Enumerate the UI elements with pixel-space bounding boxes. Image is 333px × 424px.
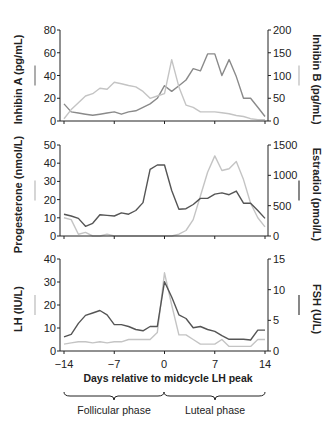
right-tick-label: 150 [273, 47, 291, 59]
x-axis-title: Days relative to midcycle LH peak [83, 372, 252, 384]
inhibin-a-line [64, 54, 265, 117]
left-tick-label: 20 [44, 299, 56, 311]
left-tick-label: 30 [44, 276, 56, 288]
left-tick-label: 40 [44, 253, 56, 265]
right-axis-title: Estradiol (pmol/L) [311, 148, 323, 242]
x-tick-label: 0 [161, 358, 167, 370]
right-tick-label: 5 [273, 314, 279, 326]
hormone-cycle-figure: 020406080050100150200Inhibin A (pg/mL)In… [0, 0, 333, 424]
right-tick-label: 1500 [273, 139, 297, 151]
right-tick-label: 500 [273, 200, 291, 212]
left-axis-title: Progesterone (nmol/L) [12, 135, 24, 253]
right-axis-title: Inhibin B (pg/mL) [311, 34, 323, 125]
right-tick-label: 0 [273, 115, 279, 127]
middle-panel: 01020304050050010001500Progesterone (nmo… [12, 135, 323, 253]
right-tick-label: 0 [273, 345, 279, 357]
inhibin-b-line [64, 60, 265, 120]
left-tick-label: 0 [50, 345, 56, 357]
progesterone-line [64, 156, 265, 236]
top-panel: 020406080050100150200Inhibin A (pg/mL)In… [12, 24, 323, 127]
left-tick-label: 50 [44, 139, 56, 151]
left-tick-label: 0 [50, 230, 56, 242]
right-tick-label: 200 [273, 24, 291, 36]
follicular-brace [64, 392, 164, 400]
right-tick-label: 0 [273, 230, 279, 242]
left-axis-title: LH (IU/L) [12, 286, 24, 332]
left-tick-label: 10 [44, 212, 56, 224]
left-tick-label: 20 [44, 194, 56, 206]
right-tick-label: 1000 [273, 169, 297, 181]
left-tick-label: 20 [44, 92, 56, 104]
left-tick-label: 10 [44, 322, 56, 334]
left-axis-title: Inhibin A (pg/mL) [12, 34, 24, 124]
left-tick-label: 80 [44, 24, 56, 36]
x-tick-label: −7 [108, 358, 121, 370]
left-tick-label: 0 [50, 115, 56, 127]
left-tick-label: 40 [44, 157, 56, 169]
fsh-line [64, 282, 265, 340]
x-tick-label: 14 [259, 358, 271, 370]
x-tick-label: −14 [55, 358, 74, 370]
luteal-brace [164, 392, 265, 400]
luteal-phase-label: Luteal phase [185, 404, 245, 416]
right-tick-label: 50 [273, 92, 285, 104]
left-tick-label: 40 [44, 70, 56, 82]
left-tick-label: 60 [44, 47, 56, 59]
right-tick-label: 15 [273, 253, 285, 265]
estradiol-line [64, 165, 265, 226]
right-tick-label: 10 [273, 284, 285, 296]
right-tick-label: 100 [273, 70, 291, 82]
x-tick-label: 7 [212, 358, 218, 370]
right-axis-title: FSH (U/L) [311, 284, 323, 334]
bottom-panel: 010203040051015LH (IU/L)FSH (U/L) [12, 253, 323, 357]
follicular-phase-label: Follicular phase [77, 404, 151, 416]
left-tick-label: 30 [44, 175, 56, 187]
